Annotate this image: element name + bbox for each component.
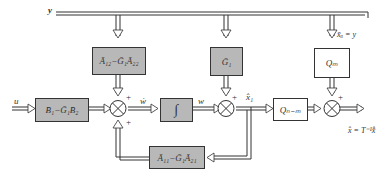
signal-x-ii-label: x̄ᵢᵢ = y — [337, 30, 356, 39]
qm-block: Qₘ — [314, 48, 350, 78]
plus-sign: + — [232, 92, 237, 102]
g1-block: Ḡ₁ — [210, 47, 243, 76]
output-x-hat-label: x̂ = T⁻¹x̂̄ — [348, 126, 375, 135]
plus-sign: + — [126, 92, 131, 102]
a12-block-label: Ā₁₂−Ḡ₁Ā₂₂ — [99, 56, 138, 66]
b-block-label: B̄₁−Ḡ₁B̄₂ — [46, 105, 79, 115]
signal-u-label: u — [14, 96, 19, 106]
signal-w-label: w — [198, 96, 204, 106]
q-n-m-label: Qₙ₋ₘ — [280, 105, 302, 115]
qm-block-label: Qₘ — [326, 58, 339, 68]
a12-minus-g1a22-block: Ā₁₂−Ḡ₁Ā₂₂ — [92, 47, 146, 75]
plus-sign: + — [126, 117, 131, 127]
a11-minus-g1a21-block: Ā₁₁−Ḡ₁Ā₂₁ — [149, 146, 205, 169]
integrator-label: ∫ — [175, 102, 179, 118]
a11-block-label: Ā₁₁−Ḡ₁Ā₂₁ — [157, 153, 196, 163]
q-n-m-block: Qₙ₋ₘ — [273, 98, 308, 121]
b1-minus-g1b2-block: B̄₁−Ḡ₁B̄₂ — [35, 98, 89, 122]
signal-x1-hat-label: x̂₁ — [246, 92, 253, 102]
integrator-block: ∫ — [160, 98, 193, 122]
plus-sign: + — [338, 92, 343, 102]
g1-block-label: Ḡ₁ — [222, 57, 232, 67]
signal-y-label: y — [48, 5, 52, 15]
signal-w-dot-label: ẇ — [140, 96, 146, 106]
